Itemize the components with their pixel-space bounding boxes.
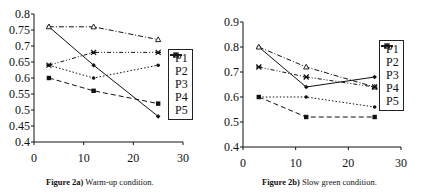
- series-p2: [257, 95, 377, 119]
- chart-b-caption-text: Slow green condition.: [300, 177, 377, 187]
- series-p1: [47, 25, 161, 119]
- chart-a-legend: P1P2P3P4P5: [168, 49, 193, 120]
- chart-warm-up: 0.40.450.50.550.60.650.70.750.80102030 P…: [0, 0, 212, 194]
- chart-slow-green: 0.40.50.60.70.80.90102030 P1P2P3P4P5 Fig…: [212, 0, 423, 194]
- legend-item-p5: P5: [175, 104, 188, 117]
- legend-item-p5: P5: [386, 95, 399, 108]
- x-tick-label: 20: [342, 156, 354, 170]
- y-tick-label: 0.8: [224, 40, 239, 54]
- y-tick-label: 0.5: [224, 115, 239, 129]
- x-tick-label: 0: [240, 156, 246, 170]
- series-p2: [47, 76, 161, 106]
- y-tick-label: 0.4: [15, 135, 30, 149]
- chart-b-legend: P1P2P3P4P5: [379, 40, 404, 111]
- chart-b-caption-label: Figure 2b): [262, 177, 300, 187]
- series-p1: [257, 45, 377, 90]
- y-tick-label: 0.9: [224, 15, 239, 29]
- y-tick-label: 0.5: [15, 103, 30, 117]
- legend-marker-icon: [380, 41, 394, 51]
- y-tick-label: 0.6: [15, 71, 30, 85]
- y-tick-label: 0.4: [224, 140, 239, 154]
- chart-a-caption-label: Figure 2a): [46, 177, 83, 187]
- x-tick-label: 20: [127, 151, 139, 165]
- legend-label: P5: [386, 94, 399, 109]
- x-tick-label: 10: [78, 151, 90, 165]
- y-tick-label: 0.6: [224, 90, 239, 104]
- legend-label: P5: [175, 103, 188, 118]
- y-tick-label: 0.7: [224, 65, 239, 79]
- legend-marker-icon: [169, 50, 183, 60]
- series-p3: [257, 95, 376, 109]
- series-p4: [256, 44, 377, 89]
- x-tick-label: 10: [290, 156, 302, 170]
- chart-a-caption: Figure 2a) Warm-up condition.: [46, 177, 154, 187]
- x-tick-label: 30: [177, 151, 189, 165]
- x-tick-label: 30: [395, 156, 407, 170]
- y-tick-label: 0.55: [9, 87, 30, 101]
- series-p5: [46, 50, 161, 68]
- series-p3: [47, 63, 160, 79]
- y-tick-label: 0.75: [9, 23, 30, 37]
- x-tick-label: 0: [31, 151, 37, 165]
- y-tick-label: 0.45: [9, 119, 30, 133]
- y-tick-label: 0.8: [15, 7, 30, 21]
- chart-b-caption: Figure 2b) Slow green condition.: [262, 177, 377, 187]
- y-tick-label: 0.65: [9, 55, 30, 69]
- y-tick-label: 0.7: [15, 39, 30, 53]
- chart-a-caption-text: Warm-up condition.: [83, 177, 153, 187]
